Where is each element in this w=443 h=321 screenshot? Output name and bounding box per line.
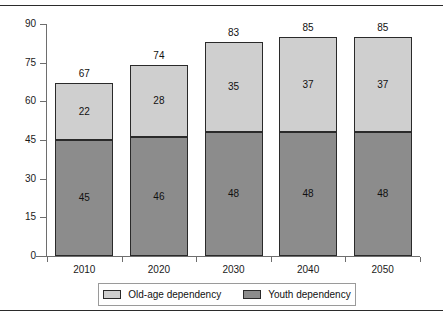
bar-segment-youth[interactable]: 45 — [55, 140, 113, 256]
y-tick — [40, 24, 46, 25]
light-gray-swatch-icon — [103, 290, 121, 299]
y-tick-label: 30 — [8, 174, 36, 184]
x-tick — [122, 257, 123, 262]
y-tick-label-text: 90 — [8, 19, 36, 29]
bar-segment-old-age[interactable]: 37 — [354, 37, 412, 132]
x-tick — [271, 257, 272, 262]
y-tick-label-text: 30 — [8, 174, 36, 184]
dark-gray-swatch-icon — [243, 290, 261, 299]
x-tick-label: 2020 — [129, 264, 189, 276]
y-tick-label: 90 — [8, 19, 36, 29]
legend-item-youth[interactable]: Youth dependency — [243, 289, 351, 300]
y-tick — [40, 101, 46, 102]
y-axis-line — [46, 24, 47, 257]
bar-group[interactable]: 483785 — [279, 24, 337, 256]
bar-total-label: 74 — [130, 51, 188, 61]
x-tick — [196, 257, 197, 262]
bar-value-label: 37 — [303, 80, 314, 90]
y-tick-label-text: 15 — [8, 212, 36, 222]
y-tick — [40, 140, 46, 141]
bar-value-label: 48 — [303, 189, 314, 199]
bar-value-label: 37 — [377, 80, 388, 90]
x-tick-label: 2050 — [353, 264, 413, 276]
bar-value-label: 35 — [228, 82, 239, 92]
y-tick-label-text: 75 — [8, 58, 36, 68]
bar-value-label: 48 — [228, 189, 239, 199]
bar-value-label: 28 — [153, 96, 164, 106]
bar-group[interactable]: 452267 — [55, 24, 113, 256]
x-tick — [420, 257, 421, 262]
bar-total-label: 85 — [354, 23, 412, 33]
bar-segment-youth[interactable]: 48 — [279, 132, 337, 256]
bar-value-label: 22 — [79, 107, 90, 117]
y-tick — [40, 256, 46, 257]
legend-label-old-age: Old-age dependency — [128, 289, 221, 300]
legend-label-youth: Youth dependency — [268, 289, 351, 300]
x-tick — [345, 257, 346, 262]
y-tick — [40, 217, 46, 218]
bar-segment-old-age[interactable]: 22 — [55, 83, 113, 140]
bar-segment-old-age[interactable]: 28 — [130, 65, 188, 137]
x-tick-label: 2040 — [278, 264, 338, 276]
y-tick-label: 0 — [8, 251, 36, 261]
x-tick-label: 2030 — [204, 264, 264, 276]
bar-value-label: 48 — [377, 189, 388, 199]
y-tick-label: 60 — [8, 96, 36, 106]
y-tick-label-text: 0 — [8, 251, 36, 261]
y-tick-label: 45 — [8, 135, 36, 145]
y-tick — [40, 179, 46, 180]
x-tick — [47, 257, 48, 262]
bar-group[interactable]: 483583 — [205, 24, 263, 256]
bar-segment-youth[interactable]: 46 — [130, 137, 188, 256]
bar-group[interactable]: 462874 — [130, 24, 188, 256]
bar-segment-youth[interactable]: 48 — [205, 132, 263, 256]
y-tick-label: 15 — [8, 212, 36, 222]
bar-total-label: 85 — [279, 23, 337, 33]
x-tick-label: 2010 — [54, 264, 114, 276]
bottom-divider — [0, 310, 443, 311]
x-axis-line — [36, 256, 420, 257]
bar-segment-youth[interactable]: 48 — [354, 132, 412, 256]
y-tick-label-text: 45 — [8, 135, 36, 145]
bar-value-label: 46 — [153, 192, 164, 202]
chart-legend: Old-age dependency Youth dependency — [98, 283, 356, 306]
bar-total-label: 83 — [205, 28, 263, 38]
bar-group[interactable]: 483785 — [354, 24, 412, 256]
bar-value-label: 45 — [79, 193, 90, 203]
bar-segment-old-age[interactable]: 37 — [279, 37, 337, 132]
y-tick — [40, 63, 46, 64]
legend-item-old-age[interactable]: Old-age dependency — [103, 289, 221, 300]
stacked-bar-chart: 0153045607590 45226746287448358348378548… — [0, 6, 443, 310]
bar-total-label: 67 — [55, 69, 113, 79]
y-tick-label-text: 60 — [8, 96, 36, 106]
bar-segment-old-age[interactable]: 35 — [205, 42, 263, 132]
y-tick-label: 75 — [8, 58, 36, 68]
